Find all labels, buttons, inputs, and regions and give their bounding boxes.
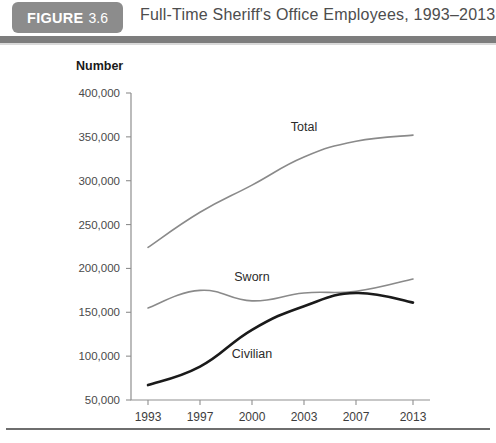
y-axis-tick-label: 100,000: [78, 350, 120, 362]
figure-badge-label: FIGURE: [27, 10, 84, 26]
series-label-total: Total: [291, 120, 317, 134]
x-axis-tick-label: 1993: [135, 410, 162, 423]
series-line-civilian: [148, 293, 413, 385]
figure-header: FIGURE 3.6 Full-Time Sheriff's Office Em…: [0, 0, 496, 36]
header-divider: [0, 36, 496, 43]
figure-title: Full-Time Sheriff's Office Employees, 19…: [140, 6, 495, 24]
y-axis-tick-label: 350,000: [78, 131, 120, 143]
y-axis-tick-label: 200,000: [78, 262, 120, 274]
footer-divider: [6, 428, 490, 430]
y-axis-tick-label: 400,000: [78, 87, 120, 99]
data-series-group: [148, 135, 413, 385]
x-axis-tick-label: 2007: [343, 410, 370, 423]
series-line-total: [148, 135, 413, 247]
axis-lines: [131, 93, 430, 400]
series-label-civilian: Civilian: [232, 347, 272, 361]
x-axis-tick-label: 2013: [400, 410, 427, 423]
figure-badge-number: 3.6: [89, 10, 108, 26]
y-axis-tick-label: 300,000: [78, 175, 120, 187]
figure-page: FIGURE 3.6 Full-Time Sheriff's Office Em…: [0, 0, 496, 443]
series-label-sworn: Sworn: [234, 270, 269, 284]
line-chart-plot: 50,000100,000150,000200,000250,000300,00…: [0, 45, 496, 423]
figure-badge: FIGURE 3.6: [12, 2, 123, 33]
x-axis-tick-label: 2003: [291, 410, 318, 423]
x-axis-tick-label: 1997: [187, 410, 214, 423]
chart-container: Number 50,000100,000150,000200,000250,00…: [0, 45, 496, 423]
y-axis-tick-label: 150,000: [78, 306, 120, 318]
x-axis-tick-label: 2000: [239, 410, 266, 423]
y-axis-tick-label: 250,000: [78, 219, 120, 231]
y-axis-tick-group: 50,000100,000150,000200,000250,000300,00…: [78, 87, 131, 406]
y-axis-tick-label: 50,000: [85, 394, 120, 406]
x-axis-tick-group: 199319972000200320072013: [135, 400, 427, 423]
